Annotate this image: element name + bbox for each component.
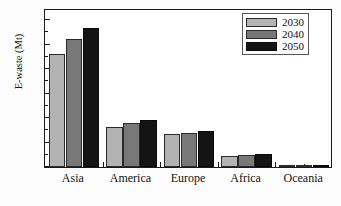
x-category-label: Asia [44, 171, 102, 186]
bar [255, 154, 272, 167]
x-tick-major [275, 162, 276, 167]
y-tick-minor [45, 56, 48, 57]
legend-item[interactable]: 2050 [246, 40, 304, 52]
y-tick-minor [45, 80, 48, 81]
bar [313, 165, 330, 167]
x-category-label: Europe [159, 171, 217, 186]
bar [123, 123, 140, 167]
bar [66, 39, 83, 167]
legend-swatch [246, 30, 277, 39]
bar [296, 165, 313, 167]
bar [49, 54, 66, 167]
x-tick-major [160, 162, 161, 167]
x-category-label: America [102, 171, 160, 186]
legend-item[interactable]: 2040 [246, 28, 304, 40]
legend-label: 2050 [282, 41, 304, 52]
bar [198, 131, 215, 167]
x-category-label: Africa [217, 171, 275, 186]
x-tick-major [218, 162, 219, 167]
legend-swatch [246, 18, 277, 27]
y-tick-minor [45, 154, 48, 155]
legend[interactable]: 203020402050 [242, 13, 309, 55]
x-tick-major [103, 162, 104, 167]
bar [106, 127, 123, 167]
bar [238, 155, 255, 167]
legend-item[interactable]: 2030 [246, 16, 304, 28]
legend-swatch [246, 42, 277, 51]
chart-figure: E-waste (Mt) 0102030405060 AsiaAmericaEu… [0, 0, 341, 206]
bar [221, 156, 238, 167]
legend-label: 2040 [282, 29, 304, 40]
y-tick-minor [45, 31, 48, 32]
y-tick-minor [45, 105, 48, 106]
bar [140, 120, 157, 167]
x-category-label: Oceania [274, 171, 332, 186]
bar [181, 133, 198, 167]
bar [164, 134, 181, 167]
bar [279, 165, 296, 167]
bar-group [106, 10, 157, 167]
bar [83, 28, 100, 167]
y-tick-minor [45, 129, 48, 130]
bar-group [164, 10, 215, 167]
y-axis-title: E-waste (Mt) [13, 2, 24, 122]
legend-label: 2030 [282, 17, 304, 28]
bar-group [49, 10, 100, 167]
